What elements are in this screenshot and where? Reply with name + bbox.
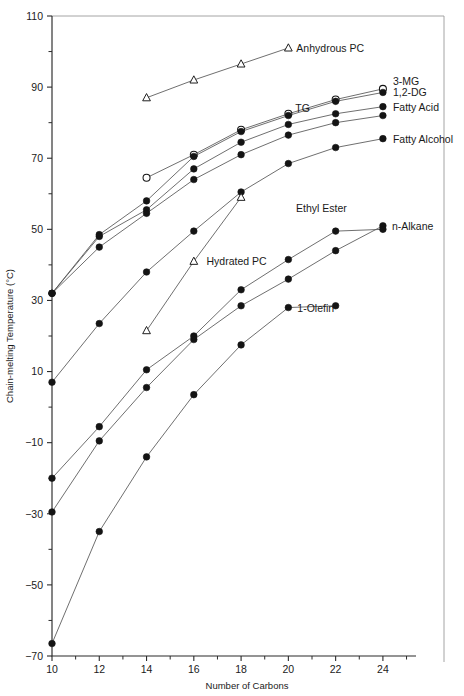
data-point-filled (191, 228, 198, 235)
data-point-filled (332, 98, 339, 105)
data-point-filled (380, 226, 387, 233)
series-label-hydrated-pc: Hydrated PC (207, 255, 268, 267)
series-label-fatty-alcohol: Fatty Alcohol (393, 133, 453, 145)
series-label-1-olefin: 1-Olefin (297, 302, 334, 314)
data-point-filled (285, 112, 292, 119)
x-tick-label: 14 (141, 663, 153, 675)
data-point-filled (380, 103, 387, 110)
data-point-filled (49, 475, 56, 482)
y-tick-label: −30 (25, 508, 43, 520)
data-point-filled (191, 166, 198, 173)
y-tick-label: 30 (31, 294, 43, 306)
data-point-filled (238, 286, 245, 293)
data-point-filled (285, 276, 292, 283)
y-axis-title: Chain-melting Temperature (°C) (4, 269, 15, 403)
data-point-filled (238, 302, 245, 309)
chart-canvas: 1012141618202224 1109070503010−10−30−50−… (0, 0, 464, 696)
data-point-filled (285, 256, 292, 263)
data-point-filled (238, 342, 245, 349)
y-tick-label: −70 (25, 650, 43, 662)
data-point-filled (380, 89, 387, 96)
series-label-anhydrous-pc: Anhydrous PC (296, 42, 364, 54)
data-point-filled (49, 290, 56, 297)
data-point-filled (332, 228, 339, 235)
y-tick-label: 110 (26, 10, 43, 22)
series-label-1-2-dg: 1,2-DG (393, 86, 427, 98)
x-tick-label: 18 (235, 663, 247, 675)
data-point-filled (96, 233, 103, 240)
x-tick-label: 20 (283, 663, 295, 675)
data-point-filled (191, 333, 198, 340)
data-point-filled (143, 269, 150, 276)
x-axis-title: Number of Carbons (206, 680, 289, 691)
y-tick-label: 10 (31, 365, 43, 377)
x-tick-label: 12 (93, 663, 105, 675)
series-label-n-alkane: n-Alkane (392, 220, 434, 232)
data-point-filled (332, 119, 339, 126)
series-label-3-mg: 3-MG (393, 75, 419, 87)
data-point-filled (332, 144, 339, 151)
data-point-filled (285, 160, 292, 167)
data-point-filled (49, 379, 56, 386)
x-tick-label: 10 (46, 663, 58, 675)
data-point-filled (380, 135, 387, 142)
data-point-filled (143, 454, 150, 461)
data-point-filled (238, 151, 245, 158)
y-tick-label: −10 (25, 436, 43, 448)
y-tick-label: −50 (25, 579, 43, 591)
data-point-filled (143, 210, 150, 217)
x-tick-label: 24 (377, 663, 389, 675)
data-point-filled (191, 176, 198, 183)
series-label-ethyl-ester: Ethyl Ester (296, 202, 347, 214)
data-point-filled (191, 153, 198, 160)
series-label-tg: TG (295, 102, 310, 114)
data-point-filled (96, 528, 103, 535)
data-point-filled (96, 438, 103, 445)
x-tick-label: 22 (330, 663, 342, 675)
data-point-filled (49, 640, 56, 647)
data-point-filled (332, 247, 339, 254)
data-point-filled (238, 128, 245, 135)
data-point-filled (96, 244, 103, 251)
data-point-filled (238, 139, 245, 146)
data-point-filled (285, 132, 292, 139)
data-point-filled (143, 384, 150, 391)
data-point-filled (143, 198, 150, 205)
data-point-filled (49, 509, 56, 516)
series-label-fatty-acid: Fatty Acid (393, 101, 439, 113)
x-tick-label: 16 (188, 663, 200, 675)
data-point-filled (96, 320, 103, 327)
data-point-filled (285, 304, 292, 311)
data-point-filled (332, 110, 339, 117)
data-point-filled (285, 121, 292, 128)
data-point-filled (96, 423, 103, 430)
y-tick-label: 90 (31, 81, 43, 93)
y-tick-label: 50 (31, 223, 43, 235)
data-point-filled (380, 112, 387, 119)
chart-figure: 1012141618202224 1109070503010−10−30−50−… (0, 0, 464, 696)
data-point-filled (143, 366, 150, 373)
data-point-open (143, 174, 150, 181)
data-point-filled (191, 391, 198, 398)
y-tick-label: 70 (31, 152, 43, 164)
